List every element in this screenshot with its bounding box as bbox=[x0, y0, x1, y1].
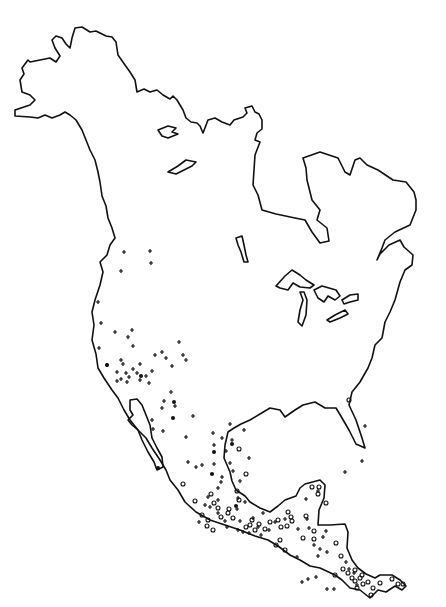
plus-marker-icon bbox=[238, 519, 242, 523]
plus-marker-icon bbox=[306, 577, 310, 581]
circle-marker-icon bbox=[209, 492, 213, 496]
circle-marker-icon bbox=[268, 520, 272, 524]
circle-marker-icon bbox=[263, 527, 267, 531]
plus-marker-icon bbox=[344, 560, 348, 564]
plus-marker-icon bbox=[304, 497, 308, 501]
plus-marker-icon bbox=[316, 554, 320, 558]
plus-marker-icon bbox=[216, 511, 220, 515]
plus-marker-icon bbox=[125, 380, 129, 384]
circle-marker-icon bbox=[346, 571, 350, 575]
circle-marker-icon bbox=[211, 528, 215, 532]
plus-marker-icon bbox=[216, 498, 220, 502]
circle-marker-icon bbox=[212, 501, 216, 505]
circle-marker-icon bbox=[286, 510, 290, 514]
plus-marker-icon bbox=[212, 443, 216, 447]
plus-marker-icon bbox=[314, 575, 318, 579]
plus-marker-icon bbox=[144, 374, 148, 378]
circle-marker-icon bbox=[301, 536, 305, 540]
plus-marker-icon bbox=[127, 375, 131, 379]
plus-marker-icon bbox=[267, 528, 271, 532]
plus-marker-icon bbox=[307, 526, 311, 530]
plus-marker-icon bbox=[161, 429, 165, 433]
plus-marker-icon bbox=[160, 350, 164, 354]
plus-marker-icon bbox=[332, 587, 336, 591]
dot-marker-icon bbox=[156, 466, 160, 470]
circle-marker-icon bbox=[341, 567, 345, 571]
plus-marker-icon bbox=[343, 470, 347, 474]
plus-marker-icon bbox=[197, 520, 201, 524]
plus-marker-icon bbox=[238, 479, 242, 483]
circle-marker-icon bbox=[244, 472, 248, 476]
plus-marker-icon bbox=[261, 511, 265, 515]
plus-marker-icon bbox=[170, 364, 174, 368]
plus-marker-icon bbox=[119, 377, 123, 381]
circle-marker-icon bbox=[205, 524, 209, 528]
lake-ontario-outline bbox=[342, 294, 358, 304]
plus-marker-icon bbox=[126, 335, 130, 339]
plus-marker-icon bbox=[216, 486, 220, 490]
plus-marker-icon bbox=[97, 346, 101, 350]
plus-marker-icon bbox=[212, 462, 216, 466]
circle-marker-icon bbox=[378, 581, 382, 585]
circle-marker-icon bbox=[289, 515, 293, 519]
mainland-outline bbox=[15, 27, 416, 598]
plus-marker-icon bbox=[325, 550, 329, 554]
circle-marker-icon bbox=[290, 519, 294, 523]
circle-marker-icon bbox=[361, 582, 365, 586]
plus-marker-icon bbox=[194, 465, 198, 469]
plus-marker-icon bbox=[173, 404, 177, 408]
plus-marker-icon bbox=[147, 381, 151, 385]
circle-marker-icon bbox=[285, 524, 289, 528]
plus-marker-icon bbox=[318, 547, 322, 551]
circle-marker-icon bbox=[304, 514, 308, 518]
plus-marker-icon bbox=[153, 353, 157, 357]
plus-marker-icon bbox=[162, 399, 166, 403]
circle-marker-icon bbox=[339, 554, 343, 558]
plus-marker-icon bbox=[119, 269, 123, 273]
dot-marker-icon bbox=[105, 363, 109, 367]
circle-marker-icon bbox=[334, 541, 338, 545]
lake-erie-outline bbox=[327, 310, 348, 322]
plus-marker-icon bbox=[312, 543, 316, 547]
dot-marker-icon bbox=[171, 416, 175, 420]
lake-huron-outline bbox=[314, 286, 340, 302]
plus-marker-icon bbox=[184, 435, 188, 439]
plus-marker-icon bbox=[124, 371, 128, 375]
plus-marker-icon bbox=[360, 459, 364, 463]
dot-marker-icon bbox=[230, 442, 234, 446]
plus-marker-icon bbox=[150, 369, 154, 373]
plus-marker-icon bbox=[164, 356, 168, 360]
plus-marker-icon bbox=[121, 362, 125, 366]
plus-marker-icon bbox=[150, 418, 154, 422]
circle-marker-icon bbox=[353, 568, 357, 572]
plus-marker-icon bbox=[203, 503, 207, 507]
circle-marker-icon bbox=[312, 537, 316, 541]
circle-marker-icon bbox=[310, 485, 314, 489]
plus-marker-icon bbox=[186, 460, 190, 464]
circle-marker-icon bbox=[248, 523, 252, 527]
circle-marker-icon bbox=[396, 582, 400, 586]
plus-marker-icon bbox=[283, 517, 287, 521]
circle-marker-icon bbox=[279, 525, 283, 529]
plus-marker-icon bbox=[115, 379, 119, 383]
plus-marker-icon bbox=[211, 431, 215, 435]
plus-marker-icon bbox=[347, 567, 351, 571]
circle-marker-icon bbox=[216, 506, 220, 510]
coastline-outlines bbox=[15, 27, 416, 598]
plus-marker-icon bbox=[115, 370, 119, 374]
plus-marker-icon bbox=[99, 321, 103, 325]
plus-marker-icon bbox=[135, 371, 139, 375]
plus-marker-icon bbox=[300, 580, 304, 584]
plus-marker-icon bbox=[228, 461, 232, 465]
plus-marker-icon bbox=[228, 422, 232, 426]
circle-marker-icon bbox=[276, 518, 280, 522]
circle-marker-icon bbox=[312, 529, 316, 533]
circle-marker-icon bbox=[244, 525, 248, 529]
plus-marker-icon bbox=[169, 390, 173, 394]
circle-marker-icon bbox=[278, 538, 282, 542]
plus-marker-icon bbox=[321, 535, 325, 539]
great-slave-lake-outline bbox=[168, 160, 196, 174]
plus-marker-icon bbox=[148, 249, 152, 253]
circle-marker-icon bbox=[390, 577, 394, 581]
dot-marker-icon bbox=[172, 400, 176, 404]
